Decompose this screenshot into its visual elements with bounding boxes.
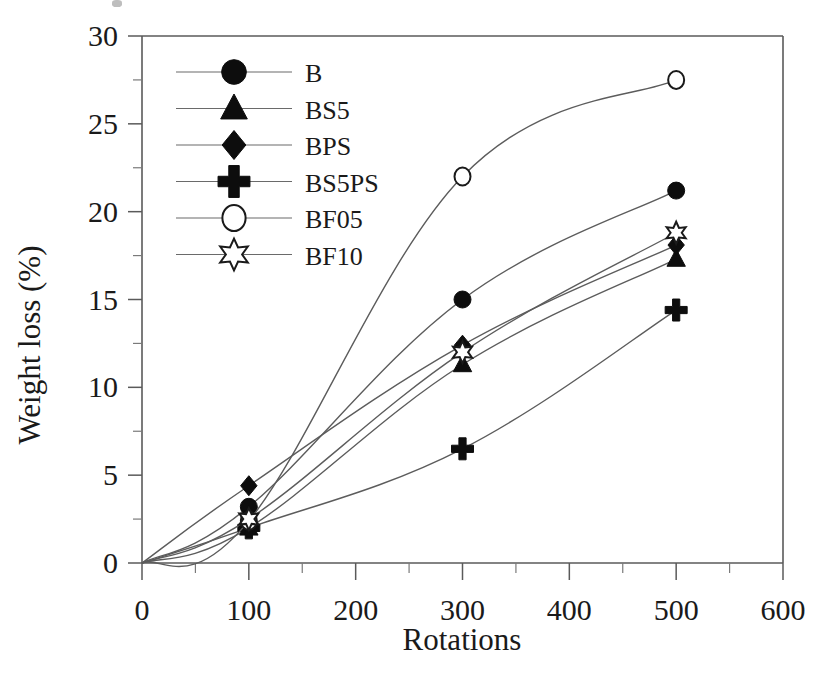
y-tick-label: 0	[103, 546, 118, 579]
series-bs5	[142, 249, 685, 563]
filled-diamond-marker	[241, 476, 257, 496]
series-bs5ps	[142, 299, 687, 563]
x-tick-label: 200	[333, 593, 378, 626]
filled-plus-icon	[218, 166, 250, 198]
y-axis-title: Weight loss (%)	[12, 246, 47, 445]
series-line	[142, 233, 676, 563]
legend-label: BS5PS	[305, 169, 379, 198]
legend-label: BPS	[305, 132, 351, 161]
filled-circle-icon	[222, 60, 247, 85]
x-tick-label: 600	[761, 593, 806, 626]
legend-entry-bps: BPS	[176, 131, 351, 162]
scan-artifact	[112, 0, 122, 7]
open-circle-marker	[668, 71, 684, 89]
legend-label: BF10	[305, 242, 363, 271]
legend-label: BF05	[305, 205, 363, 234]
series-line	[142, 80, 676, 567]
filled-plus-marker	[452, 438, 474, 460]
filled-circle-marker	[668, 182, 685, 199]
y-tick-label: 30	[88, 19, 118, 52]
series-line	[142, 310, 676, 563]
x-tick-label: 400	[547, 593, 592, 626]
y-tick-label: 15	[88, 283, 118, 316]
legend-entry-b: B	[176, 59, 322, 88]
legend-entry-bf10: BF10	[176, 239, 363, 271]
x-tick-label: 0	[135, 593, 150, 626]
filled-diamond-icon	[222, 131, 246, 160]
filled-triangle-icon	[221, 94, 248, 119]
weight-loss-vs-rotations-chart: 051015202530 0100200300400500600 BBS5BPS…	[0, 0, 822, 677]
series-bf10	[142, 222, 686, 563]
y-tick-label: 25	[88, 107, 118, 140]
y-axis-tick-labels: 051015202530	[88, 19, 118, 579]
series-line	[142, 245, 676, 563]
chart-figure: 051015202530 0100200300400500600 BBS5BPS…	[0, 0, 822, 677]
legend-entry-bs5: BS5	[176, 94, 350, 125]
y-tick-label: 10	[88, 370, 118, 403]
x-tick-label: 100	[226, 593, 271, 626]
filled-circle-marker	[454, 291, 471, 308]
series-line	[142, 259, 676, 563]
open-circle-marker	[455, 168, 471, 186]
legend-label: B	[305, 59, 322, 88]
filled-plus-marker	[665, 299, 687, 321]
legend-entry-bf05: BF05	[176, 205, 363, 234]
legend-entry-bs5ps: BS5PS	[176, 166, 379, 198]
x-axis-title: Rotations	[403, 622, 522, 657]
x-tick-label: 500	[654, 593, 699, 626]
y-tick-label: 5	[103, 458, 118, 491]
y-tick-label: 20	[88, 195, 118, 228]
open-star-marker	[667, 222, 686, 244]
legend-label: BS5	[305, 96, 350, 125]
chart-legend: BBS5BPSBS5PSBF05BF10	[176, 59, 379, 271]
open-circle-icon	[222, 205, 245, 231]
